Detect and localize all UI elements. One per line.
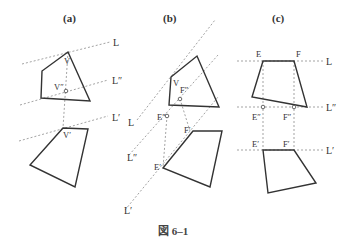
label-L: L [113,37,119,48]
label-F-double-prime: F″ [283,112,292,122]
line-L-double-prime [20,80,108,105]
label-L-double-prime: L″ [127,152,137,163]
label-E-prime: E′ [252,139,259,149]
point-F-double-prime [292,105,296,109]
label-V: V [173,78,180,88]
point-V-double-prime [64,89,68,93]
point-F-double-prime [178,97,182,101]
upper-face [252,61,307,107]
label-E-prime: E′ [154,162,161,172]
label-L-double-prime: L″ [112,75,122,86]
label-E-double-prime: E″ [157,112,166,122]
label-L: L [326,56,332,67]
label-V-prime: V′ [63,130,71,140]
panel-c: (c) E F L E″ F″ L″ E′ F′ L′ [237,12,336,193]
line-L-prime [125,97,218,210]
panel-a-title: (a) [63,12,76,25]
label-L: L [128,117,134,128]
panel-a: (a) L L″ L′ V V″ V′ [19,12,122,187]
label-L-prime: L′ [112,112,120,123]
lower-face [163,131,222,187]
label-L-prime: L′ [124,205,132,216]
label-E-double-prime: E″ [252,112,261,122]
lower-face [263,150,316,193]
label-F: F [296,49,301,59]
label-E: E [256,49,261,59]
figure-6-1: (a) L L″ L′ V V″ V′ (b) L L″ L′ V F″ E″ … [0,0,351,245]
label-L-double-prime: L″ [326,102,336,113]
panel-b-title: (b) [163,12,177,25]
panel-b: (b) L L″ L′ V F″ E″ F′ E′ [124,12,222,216]
label-F-double-prime: F″ [180,85,189,95]
figure-caption: 図 6–1 [158,224,188,237]
label-V: V [64,56,71,66]
lower-face [30,128,88,187]
label-L-prime: L′ [326,145,334,156]
point-E-double-prime [165,114,169,118]
label-F-prime: F′ [283,139,290,149]
label-F-prime: F′ [184,125,191,135]
label-V-double-prime: V″ [54,82,64,92]
panel-c-title: (c) [272,12,285,25]
point-E-double-prime [261,105,265,109]
